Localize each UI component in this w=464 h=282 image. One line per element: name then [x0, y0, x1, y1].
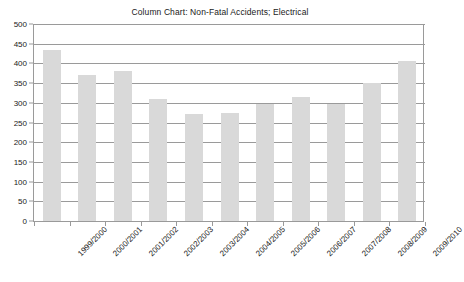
y-axis-tick-label: 150 — [14, 157, 27, 166]
x-axis-tick-label: 2006/2007 — [325, 225, 358, 258]
x-axis-tick-label: 2004/2005 — [254, 225, 287, 258]
x-axis-tick-label: 2009/2010 — [431, 225, 464, 258]
y-axis: 050100150200250300350400450500 — [0, 24, 33, 222]
y-axis-tick-label: 50 — [18, 197, 27, 206]
y-axis-tick-label: 350 — [14, 79, 27, 88]
x-axis-tick-label: 2002/2003 — [182, 225, 215, 258]
y-axis-tick-label: 200 — [14, 138, 27, 147]
x-axis-tick-label: 2007/2008 — [360, 225, 393, 258]
y-axis-tick-label: 400 — [14, 59, 27, 68]
bar — [327, 104, 345, 221]
x-axis-tick-label: 2008/2009 — [396, 225, 429, 258]
y-axis-tick-label: 100 — [14, 177, 27, 186]
bar — [43, 50, 61, 221]
x-axis: 1999/20002000/20012001/20022002/20032003… — [33, 222, 424, 282]
bar — [114, 71, 132, 221]
x-axis-tick-label: 2005/2006 — [289, 225, 322, 258]
x-axis-tick-label: 2000/2001 — [111, 225, 144, 258]
x-axis-tick — [425, 222, 426, 226]
x-axis-tick-label: 2001/2002 — [147, 225, 180, 258]
x-axis-tick-label: 1999/2000 — [76, 225, 109, 258]
bar — [292, 97, 310, 221]
y-axis-tick-label: 250 — [14, 118, 27, 127]
bar — [185, 114, 203, 221]
bar — [256, 104, 274, 221]
y-axis-tick-label: 0 — [23, 217, 27, 226]
plot-area — [33, 24, 424, 222]
y-axis-tick-label: 500 — [14, 20, 27, 29]
y-axis-tick-label: 300 — [14, 98, 27, 107]
x-axis-tick-label: 2003/2004 — [218, 225, 251, 258]
bar — [221, 113, 239, 221]
y-axis-tick-label: 450 — [14, 39, 27, 48]
chart-title: Column Chart: Non-Fatal Accidents; Elect… — [0, 7, 440, 17]
bar — [149, 99, 167, 221]
bar — [363, 83, 381, 221]
bar — [78, 75, 96, 221]
bar-series — [34, 24, 425, 221]
bar — [398, 61, 416, 221]
